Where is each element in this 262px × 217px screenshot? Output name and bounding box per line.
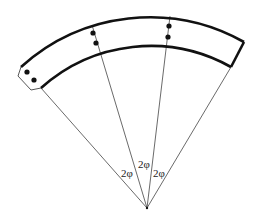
angle-label-left: 2φ	[121, 167, 133, 179]
angle-label-right: 2φ	[153, 167, 165, 179]
angle-label-middle: 2φ	[138, 158, 150, 170]
joint-dot	[24, 69, 29, 74]
radial-line-right	[147, 67, 231, 208]
outer-arc	[21, 17, 244, 67]
joint-dot	[93, 40, 98, 45]
apex-point	[146, 207, 148, 209]
joint-dot	[165, 34, 170, 39]
inner-arc	[41, 46, 231, 88]
radial-line-left	[41, 88, 147, 208]
joint-dots	[24, 23, 171, 82]
joint-dot	[90, 30, 95, 35]
arc-segment-diagram: 2φ 2φ 2φ	[0, 0, 262, 217]
right-end-cap	[231, 42, 244, 67]
beam	[21, 17, 244, 88]
radial-lines	[41, 16, 231, 208]
joint-dot	[31, 77, 36, 82]
left-end-cap	[18, 67, 41, 90]
joint-dot	[166, 23, 171, 28]
